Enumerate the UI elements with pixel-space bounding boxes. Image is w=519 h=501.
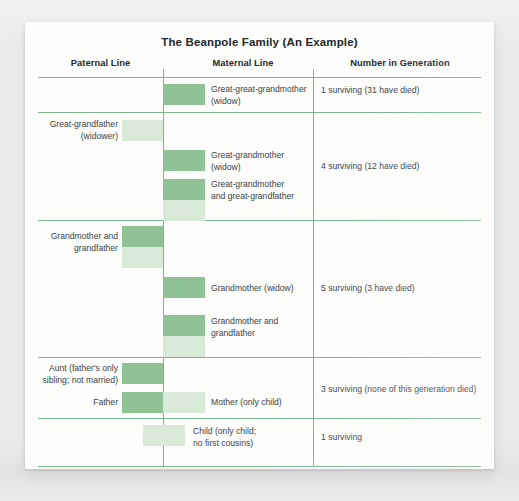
label-maternal-grandparents: Grandmother andgrandfather bbox=[211, 316, 316, 339]
person-block-great-great-grandmother bbox=[163, 84, 205, 105]
label-father: Father bbox=[25, 397, 118, 409]
person-block-grandfather-paternal bbox=[122, 247, 163, 268]
person-block-great-grandmother-couple bbox=[163, 179, 205, 200]
count-generation-5: 1 surviving bbox=[321, 432, 481, 444]
person-block-grandmother-paternal bbox=[122, 226, 163, 247]
rule-under-headers bbox=[38, 77, 481, 78]
count-generation-3: 5 surviving (3 have died) bbox=[321, 283, 481, 295]
count-generation-4: 3 surviving (none of this generation die… bbox=[321, 384, 489, 396]
rule-chart-bottom bbox=[38, 466, 481, 467]
column-header-number: Number in Generation bbox=[317, 58, 483, 68]
rule-generation-4-bottom bbox=[38, 418, 481, 419]
chart-title: The Beanpole Family (An Example) bbox=[25, 36, 494, 48]
column-header-maternal: Maternal Line bbox=[173, 58, 313, 68]
label-paternal-grandparents: Grandmother andgrandfather bbox=[25, 231, 118, 254]
label-aunt: Aunt (father's onlysibling; not married) bbox=[25, 363, 118, 386]
count-generation-1: 1 surviving (31 have died) bbox=[321, 85, 481, 97]
count-generation-2: 4 surviving (12 have died) bbox=[321, 161, 481, 173]
label-child: Child (only child;no first cousins) bbox=[193, 426, 308, 449]
rule-generation-2-bottom bbox=[38, 220, 481, 221]
figure-card: The Beanpole Family (An Example) Paterna… bbox=[25, 22, 494, 469]
person-block-great-grandfather bbox=[122, 120, 163, 141]
person-block-great-grandmother-widow bbox=[163, 150, 205, 171]
person-block-aunt bbox=[122, 363, 163, 384]
label-great-grandparents-couple: Great-grandmotherand great-grandfather bbox=[211, 179, 321, 202]
label-great-grandmother-widow: Great-grandmother(widow) bbox=[211, 150, 316, 173]
person-block-mother bbox=[163, 392, 205, 413]
person-block-child bbox=[143, 425, 185, 446]
beanpole-family-chart: The Beanpole Family (An Example) Paterna… bbox=[25, 22, 494, 469]
page-root: The Beanpole Family (An Example) Paterna… bbox=[0, 0, 519, 501]
person-block-great-grandfather-couple bbox=[163, 200, 205, 221]
rule-generation-1-bottom bbox=[38, 112, 481, 113]
person-block-grandfather-couple bbox=[163, 336, 205, 357]
person-block-grandmother-widow bbox=[163, 277, 205, 298]
label-great-grandfather: Great-grandfather(widower) bbox=[25, 119, 118, 142]
rule-generation-3-bottom bbox=[38, 357, 481, 358]
person-block-grandmother-couple bbox=[163, 315, 205, 336]
label-mother: Mother (only child) bbox=[211, 397, 321, 409]
column-header-paternal: Paternal Line bbox=[38, 58, 163, 68]
person-block-father bbox=[122, 392, 163, 413]
label-great-great-grandmother: Great-great-grandmother(widow) bbox=[211, 84, 311, 107]
label-grandmother-widow: Grandmother (widow) bbox=[211, 283, 316, 295]
